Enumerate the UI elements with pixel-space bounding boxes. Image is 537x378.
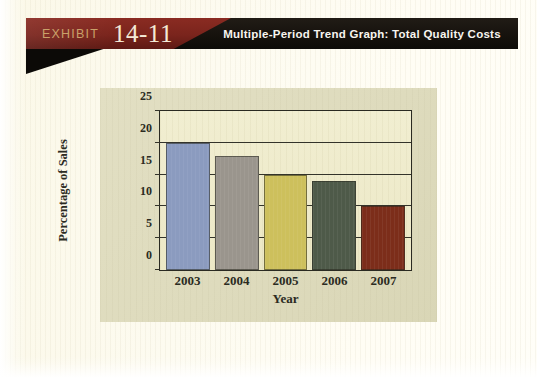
bar-slot [215,111,259,270]
y-axis-tick-label: 10 [140,184,152,199]
bar-slot [361,111,405,270]
x-axis-title: Year [159,291,412,307]
x-axis-tick-label-2006: 2006 [312,273,356,289]
page-left-shading [0,0,26,378]
exhibit-title: Multiple-Period Trend Graph: Total Quali… [206,18,518,49]
x-axis-tick-label-2004: 2004 [214,273,258,289]
exhibit-slide: EXHIBIT 14-11 Multiple-Period Trend Grap… [0,0,537,378]
y-axis-tick-label: 25 [140,89,152,104]
y-axis-tick-label: 5 [146,216,152,231]
bar-2006 [312,181,356,270]
exhibit-number: 14-11 [113,19,173,49]
bar-series [160,111,411,270]
bar-2007 [361,206,405,270]
bar-slot [264,111,308,270]
y-axis-tick-label: 15 [140,152,152,167]
bar-slot [312,111,356,270]
chart-panel: Percentage of Sales 0510152025 200320042… [100,88,437,322]
page-bottom-shading [0,356,537,378]
y-axis-tick-label: 20 [140,120,152,135]
x-axis-tick-label-2003: 2003 [165,273,209,289]
plot-area: 0510152025 [159,110,412,271]
x-axis-tick-label-2007: 2007 [361,273,405,289]
bar-slot [166,111,210,270]
x-axis-tick-label-2005: 2005 [263,273,307,289]
bar-2004 [215,156,259,270]
y-axis-title: Percentage of Sales [56,110,72,271]
y-axis-tick-label: 0 [146,248,152,263]
bar-2005 [264,175,308,270]
x-axis-tick-labels: 20032004200520062007 [159,273,412,289]
exhibit-label: EXHIBIT [42,26,99,42]
bar-2003 [166,143,210,270]
exhibit-banner: EXHIBIT 14-11 Multiple-Period Trend Grap… [26,18,518,49]
